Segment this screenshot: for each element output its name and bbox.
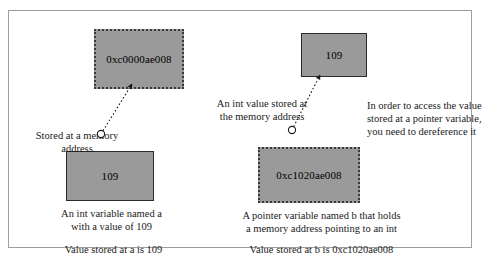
left-variable-block-value: 109 [102, 170, 119, 182]
right-variable-description: A pointer variable named b that holds a … [214, 209, 429, 235]
left-address-block-value: 0xc0000ae008 [106, 53, 171, 65]
right-address-block-value: 0xc1020ae008 [276, 169, 341, 181]
right-value-block: 109 [301, 33, 367, 77]
right-value-block-value: 109 [326, 49, 343, 61]
left-pointer-label: Stored at a memory address [17, 129, 137, 155]
dereference-note: In order to access the value stored at a… [367, 99, 484, 138]
diagram-frame: 0xc0000ae008 109 Stored at a memory addr… [8, 10, 472, 248]
left-summary: Value stored at a is 109 [31, 243, 196, 256]
left-address-block: 0xc0000ae008 [94, 29, 184, 89]
left-variable-description: An int variable named a with a value of … [34, 207, 189, 233]
right-address-block: 0xc1020ae008 [258, 147, 360, 203]
pointer-memory-diagram: 0xc0000ae008 109 Stored at a memory addr… [0, 0, 484, 262]
left-variable-block: 109 [66, 151, 154, 201]
right-summary: Value stored at b is 0xc1020ae008 [214, 243, 429, 256]
right-pointer-label: An int value stored at the memory addres… [202, 97, 322, 123]
